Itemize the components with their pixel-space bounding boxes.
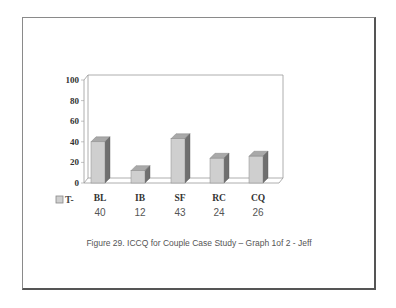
data-value: 12	[134, 207, 146, 218]
legend: T-	[56, 195, 74, 205]
y-axis-ticks: 020406080100	[66, 75, 85, 188]
x-category-label: CQ	[251, 193, 265, 203]
data-value: 43	[174, 207, 186, 218]
legend-label: T-	[65, 195, 74, 205]
figure-caption: Figure 29. ICCQ for Couple Case Study – …	[22, 238, 376, 248]
bar-chart: 020406080100 BLIBSFRCCQ 4012432426 T-	[0, 0, 396, 308]
y-tick-label: 100	[66, 75, 80, 85]
bar-rc	[210, 153, 229, 183]
x-category-label: SF	[174, 193, 185, 203]
data-value: 24	[213, 207, 225, 218]
x-category-label: BL	[94, 193, 107, 203]
data-table-values: 4012432426	[94, 207, 264, 218]
bars	[91, 134, 268, 183]
y-tick-label: 60	[70, 116, 80, 126]
x-category-label: RC	[212, 193, 226, 203]
y-tick-label: 40	[70, 137, 80, 147]
data-value: 40	[94, 207, 106, 218]
x-category-label: IB	[135, 193, 146, 203]
bar-ib	[131, 166, 150, 183]
y-tick-label: 80	[70, 96, 80, 106]
x-axis-categories: BLIBSFRCCQ	[94, 193, 265, 203]
y-tick-label: 0	[75, 178, 80, 188]
bar-sf	[171, 134, 190, 183]
bar-bl	[91, 137, 110, 183]
bar-cq	[249, 151, 268, 183]
y-tick-label: 20	[70, 157, 80, 167]
legend-swatch-icon	[56, 196, 63, 203]
data-value: 26	[252, 207, 264, 218]
